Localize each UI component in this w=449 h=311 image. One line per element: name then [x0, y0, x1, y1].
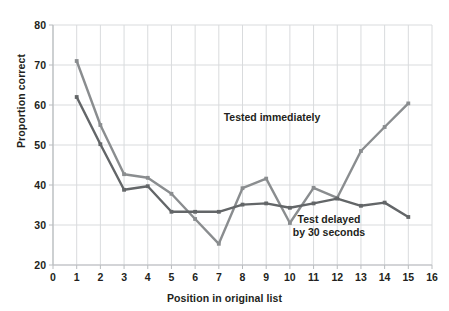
- x-tick-label: 3: [121, 271, 127, 283]
- x-tick-label: 0: [50, 271, 56, 283]
- y-axis-title: Proportion correct: [15, 54, 27, 148]
- x-tick-label: 5: [169, 271, 175, 283]
- data-point-marker: [335, 197, 339, 201]
- x-tick-labels-group: 012345678910111213141516: [50, 271, 438, 283]
- x-tick-label: 14: [379, 271, 391, 283]
- data-point-marker: [359, 204, 363, 208]
- y-tick-label: 30: [34, 219, 46, 231]
- y-tick-label: 40: [34, 179, 46, 191]
- x-tick-label: 7: [216, 271, 222, 283]
- annotations-group: Tested immediatelyTest delayedby 30 seco…: [224, 111, 366, 238]
- data-point-marker: [98, 123, 102, 127]
- x-tick-label: 11: [308, 271, 319, 283]
- x-tick-label: 10: [284, 271, 296, 283]
- data-point-marker: [312, 186, 316, 190]
- y-tick-label: 70: [34, 59, 46, 71]
- y-tick-label: 20: [34, 259, 46, 271]
- x-axis-title: Position in original list: [167, 292, 282, 304]
- y-axis-title-wrapper: Proportion correct: [11, 41, 29, 161]
- y-tick-label: 50: [34, 139, 46, 151]
- data-point-marker: [383, 125, 387, 129]
- data-point-marker: [170, 210, 174, 214]
- line-chart-plot: 20304050607080 012345678910111213141516 …: [0, 0, 449, 311]
- data-point-marker: [217, 210, 221, 214]
- x-tick-label: 9: [263, 271, 269, 283]
- x-tick-label: 15: [402, 271, 414, 283]
- y-tick-label: 80: [34, 19, 46, 31]
- y-tick-label: 60: [34, 99, 46, 111]
- data-point-marker: [359, 149, 363, 153]
- test-delayed-label-line: by 30 seconds: [293, 226, 366, 238]
- data-point-marker: [264, 177, 268, 181]
- data-point-marker: [312, 202, 316, 206]
- test-delayed-label: Test delayedby 30 seconds: [293, 213, 366, 238]
- data-point-marker: [193, 210, 197, 214]
- data-point-marker: [122, 188, 126, 192]
- x-tick-label: 16: [426, 271, 438, 283]
- data-point-marker: [288, 206, 292, 210]
- data-point-marker: [98, 142, 102, 146]
- data-point-marker: [122, 172, 126, 176]
- x-tick-label: 1: [74, 271, 80, 283]
- data-point-marker: [75, 59, 79, 63]
- data-point-marker: [264, 202, 268, 206]
- tested-immediately-label-line: Tested immediately: [224, 111, 321, 123]
- data-point-marker: [217, 242, 221, 246]
- tickmarks-group: [49, 25, 432, 269]
- data-point-marker: [146, 184, 150, 188]
- data-point-marker: [193, 217, 197, 221]
- data-point-marker: [406, 102, 410, 106]
- data-point-marker: [241, 186, 245, 190]
- data-point-marker: [75, 95, 79, 99]
- x-tick-label: 4: [145, 271, 151, 283]
- x-tick-label: 12: [331, 271, 343, 283]
- data-point-marker: [383, 201, 387, 205]
- y-tick-labels-group: 20304050607080: [34, 19, 46, 271]
- data-point-marker: [146, 176, 150, 180]
- data-point-marker: [288, 221, 292, 225]
- chart-container: 20304050607080 012345678910111213141516 …: [0, 0, 449, 311]
- x-tick-label: 2: [97, 271, 103, 283]
- data-point-marker: [241, 203, 245, 207]
- tested-immediately-label: Tested immediately: [224, 111, 321, 123]
- x-tick-label: 8: [240, 271, 246, 283]
- data-point-marker: [406, 215, 410, 219]
- x-axis-title-wrapper: Position in original list: [0, 288, 449, 306]
- test-delayed-label-line: Test delayed: [298, 213, 361, 225]
- x-tick-label: 13: [355, 271, 367, 283]
- x-tick-label: 6: [192, 271, 198, 283]
- data-point-marker: [170, 192, 174, 196]
